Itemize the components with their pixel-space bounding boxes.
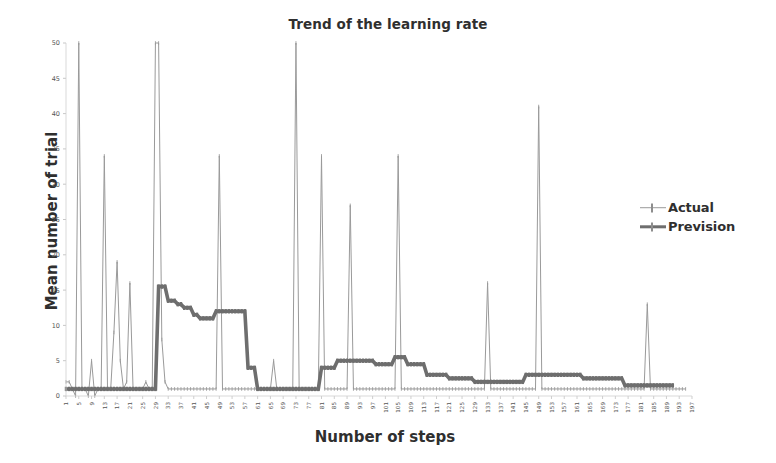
svg-text:65: 65 [268, 402, 274, 410]
svg-text:145: 145 [523, 402, 529, 413]
chart-legend: Actual Prevision [640, 198, 735, 236]
svg-text:73: 73 [293, 402, 299, 410]
svg-text:149: 149 [536, 402, 542, 413]
svg-text:193: 193 [676, 402, 682, 413]
svg-text:21: 21 [127, 402, 133, 410]
svg-text:61: 61 [255, 402, 261, 410]
svg-text:69: 69 [280, 402, 286, 410]
svg-text:137: 137 [498, 402, 504, 413]
x-axis-ticks: 1591317212529333741454953576165697377818… [63, 396, 695, 413]
legend-item-prevision[interactable]: Prevision [640, 217, 735, 236]
svg-text:89: 89 [344, 402, 350, 410]
svg-text:117: 117 [434, 402, 440, 413]
data-series-layer [66, 41, 686, 398]
svg-text:25: 25 [52, 216, 60, 224]
svg-text:33: 33 [165, 402, 171, 410]
svg-text:153: 153 [549, 402, 555, 413]
svg-text:105: 105 [395, 402, 401, 413]
svg-text:45: 45 [52, 75, 60, 83]
svg-text:15: 15 [52, 287, 60, 295]
svg-text:177: 177 [625, 402, 631, 413]
svg-text:1: 1 [63, 402, 69, 406]
svg-text:30: 30 [52, 181, 60, 189]
svg-text:93: 93 [357, 402, 363, 410]
svg-text:0: 0 [56, 392, 60, 400]
svg-text:40: 40 [52, 110, 60, 118]
svg-text:17: 17 [114, 402, 120, 410]
y-axis-ticks: 05101520253035404550 [52, 39, 66, 400]
svg-text:157: 157 [561, 402, 567, 413]
svg-text:37: 37 [178, 402, 184, 410]
svg-text:197: 197 [689, 402, 695, 413]
svg-text:165: 165 [587, 402, 593, 413]
svg-text:10: 10 [52, 322, 60, 330]
svg-text:49: 49 [217, 402, 223, 410]
legend-item-actual[interactable]: Actual [640, 198, 735, 217]
svg-text:50: 50 [52, 39, 60, 47]
legend-label-actual: Actual [668, 200, 714, 215]
svg-text:133: 133 [485, 402, 491, 413]
svg-text:109: 109 [408, 402, 414, 413]
svg-text:29: 29 [153, 402, 159, 410]
svg-text:125: 125 [459, 402, 465, 413]
svg-text:13: 13 [102, 402, 108, 410]
svg-text:97: 97 [370, 402, 376, 410]
svg-text:81: 81 [319, 402, 325, 410]
axis-lines [66, 43, 692, 396]
svg-text:20: 20 [52, 251, 60, 259]
svg-text:45: 45 [204, 402, 210, 410]
svg-text:35: 35 [52, 145, 60, 153]
x-axis-label: Number of steps [80, 428, 690, 446]
legend-marker-actual-icon [640, 202, 666, 214]
chart-container: Trend of the learning rate Mean number o… [0, 0, 776, 463]
svg-text:53: 53 [229, 402, 235, 410]
svg-text:113: 113 [421, 402, 427, 413]
svg-text:5: 5 [56, 357, 60, 365]
svg-text:57: 57 [242, 402, 248, 410]
series-actual [66, 43, 686, 396]
svg-text:129: 129 [472, 402, 478, 413]
svg-text:25: 25 [140, 402, 146, 410]
legend-label-prevision: Prevision [668, 219, 735, 234]
legend-marker-prevision-icon [640, 221, 666, 233]
svg-text:173: 173 [613, 402, 619, 413]
series-prevision [66, 287, 673, 389]
svg-text:9: 9 [89, 402, 95, 406]
svg-text:185: 185 [651, 402, 657, 413]
svg-text:161: 161 [574, 402, 580, 413]
svg-text:189: 189 [664, 402, 670, 413]
svg-text:121: 121 [446, 402, 452, 413]
svg-text:169: 169 [600, 402, 606, 413]
svg-text:77: 77 [306, 402, 312, 410]
svg-text:5: 5 [76, 402, 82, 406]
svg-text:141: 141 [510, 402, 516, 413]
svg-text:85: 85 [331, 402, 337, 410]
svg-text:101: 101 [383, 402, 389, 413]
svg-text:41: 41 [191, 402, 197, 410]
svg-text:181: 181 [638, 402, 644, 413]
